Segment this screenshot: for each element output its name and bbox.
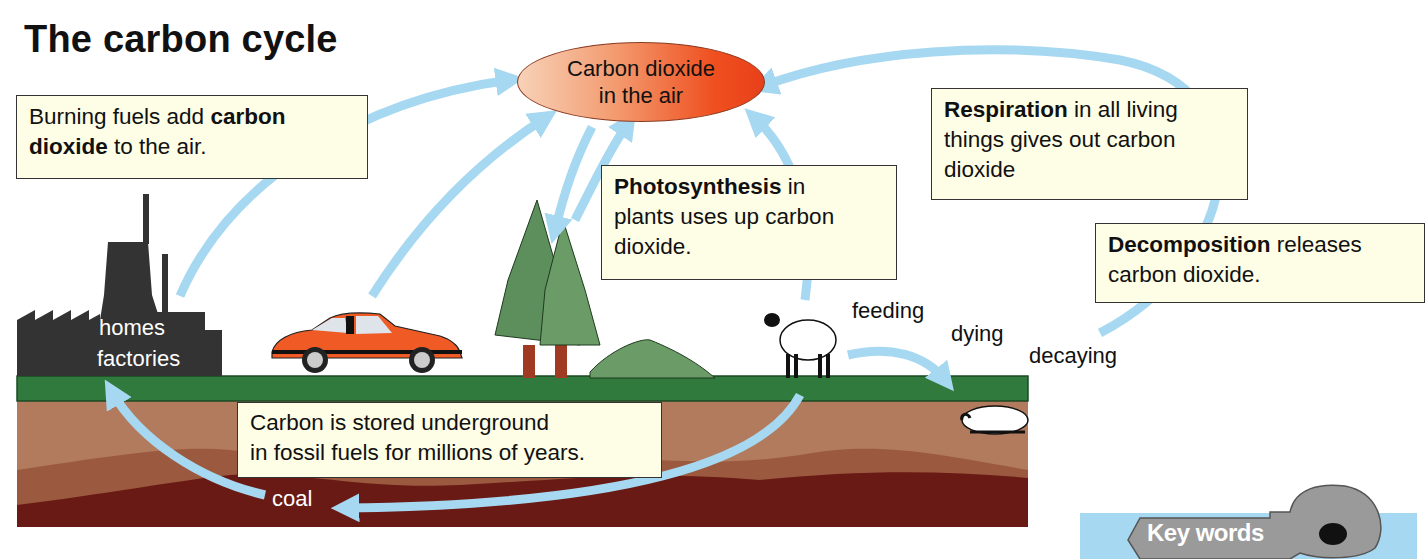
respiration-line2: things gives out carbon: [944, 127, 1175, 152]
grass-strip: [17, 376, 1028, 401]
photosynthesis-line3: dioxide.: [614, 234, 692, 259]
decomposition-box: Decomposition releases carbon dioxide.: [1095, 223, 1425, 303]
key-words-label: Key words: [1147, 519, 1264, 547]
decaying-label: decaying: [1029, 343, 1117, 369]
photosynthesis-line2: plants uses up carbon: [614, 204, 834, 229]
burning-text-bold-b: dioxide: [29, 134, 108, 159]
factories-label: factories: [97, 346, 180, 372]
homes-label: homes: [99, 315, 165, 341]
photosynthesis-box: Photosynthesis in plants uses up carbon …: [601, 165, 897, 280]
dead-sheep-icon: [962, 406, 1028, 434]
photosynthesis-line1: in: [782, 174, 806, 199]
decomposition-line2: carbon dioxide.: [1108, 262, 1261, 287]
respiration-box: Respiration in all living things gives o…: [931, 88, 1248, 200]
respiration-bold: Respiration: [944, 97, 1068, 122]
photosynthesis-bold: Photosynthesis: [614, 174, 782, 199]
burning-fuels-box: Burning fuels add carbon dioxide to the …: [16, 95, 368, 179]
burning-text-bold-a: carbon: [210, 104, 285, 129]
dying-label: dying: [951, 321, 1004, 347]
carbon-dioxide-node: Carbon dioxide in the air: [517, 42, 765, 122]
co2-line1: Carbon dioxide: [567, 55, 715, 82]
burning-text-pre: Burning fuels add: [29, 104, 210, 129]
storage-line1: Carbon is stored underground: [250, 410, 549, 435]
decomposition-line1: releases: [1271, 232, 1362, 257]
storage-line2: in fossil fuels for millions of years.: [250, 440, 585, 465]
coal-label: coal: [272, 486, 312, 512]
respiration-line3: dioxide: [944, 157, 1015, 182]
burning-text-post: to the air.: [108, 134, 207, 159]
car-icon: [272, 313, 462, 373]
sheep-icon: [764, 313, 836, 378]
respiration-line1: in all living: [1068, 97, 1178, 122]
decomposition-bold: Decomposition: [1108, 232, 1271, 257]
fossil-storage-box: Carbon is stored underground in fossil f…: [237, 402, 662, 478]
feeding-label: feeding: [852, 298, 924, 324]
co2-line2: in the air: [599, 82, 683, 109]
